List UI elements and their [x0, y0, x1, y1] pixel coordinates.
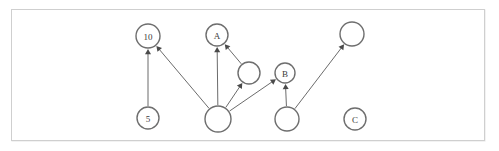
node-label: 5 — [146, 114, 151, 124]
node-label: C — [352, 115, 358, 125]
edge-nMid-to-nA — [228, 48, 242, 64]
node-label: A — [214, 31, 221, 41]
edge-nHub-to-n10 — [159, 49, 209, 108]
graph-node-10[interactable]: 10 — [136, 24, 160, 48]
graph-node-unlabeled[interactable] — [340, 22, 364, 46]
arrowhead-nHub-to-nMid — [237, 83, 242, 89]
arrowhead-nHub-to-nB — [270, 79, 276, 84]
graph-node-c[interactable]: C — [344, 108, 366, 130]
arrowhead-n5-to-n10 — [145, 49, 151, 54]
edge-nHub-to-nB — [230, 82, 273, 111]
node-label: B — [282, 69, 288, 79]
graph-node-b[interactable]: B — [275, 63, 295, 83]
arrowhead-nLow-to-nB — [283, 84, 289, 89]
edge-nLow-to-nTop — [295, 48, 342, 109]
node-layer: 105ABC — [136, 22, 366, 132]
node-circle[interactable] — [275, 107, 299, 131]
graph-node-unlabeled[interactable] — [238, 62, 260, 84]
node-circle[interactable] — [340, 22, 364, 46]
arrowhead-nHub-to-nA — [214, 47, 220, 52]
graph-svg: 105ABC — [0, 0, 499, 151]
graph-node-unlabeled[interactable] — [275, 107, 299, 131]
edge-nLow-to-nB — [286, 88, 287, 106]
node-label: 10 — [144, 32, 154, 42]
node-circle[interactable] — [238, 62, 260, 84]
diagram-canvas: 105ABC — [0, 0, 499, 151]
graph-node-a[interactable]: A — [206, 24, 228, 46]
graph-node-unlabeled[interactable] — [205, 106, 231, 132]
arrowhead-nLow-to-nTop — [339, 44, 345, 50]
graph-node-5[interactable]: 5 — [137, 107, 159, 129]
node-circle[interactable] — [205, 106, 231, 132]
edge-nHub-to-nA — [217, 51, 218, 105]
edge-nHub-to-nMid — [226, 87, 240, 108]
